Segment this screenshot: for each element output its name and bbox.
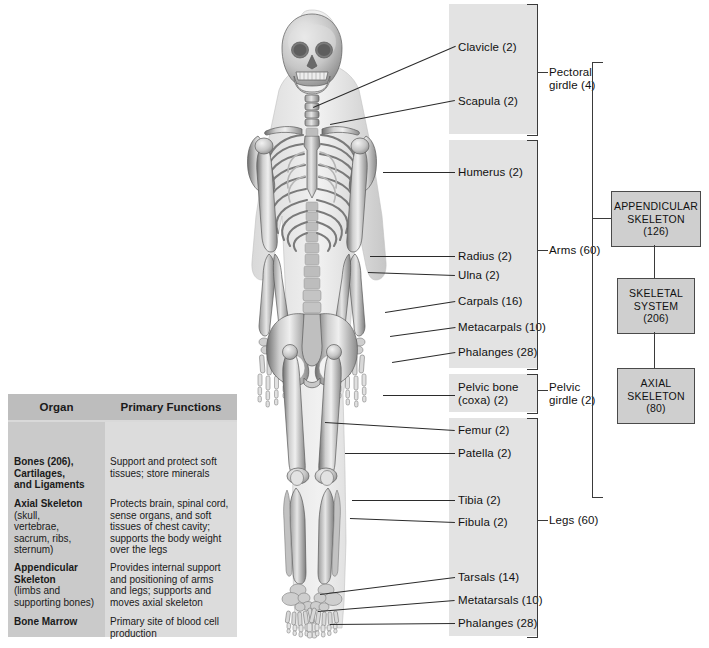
bracket-pelvic-girdle (527, 374, 538, 414)
bracket-tick-pectoral-girdle (537, 72, 548, 73)
figure-canvas: Clavicle (2)Scapula (2)Humerus (2)Radius… (0, 0, 709, 648)
flow-connector-1 (654, 245, 655, 278)
bone-label-patella: Patella (2) (458, 447, 512, 460)
table-cell-organ: Bone Marrow (14, 616, 106, 628)
flow-box-axial-skeleton: AXIALSKELETON(80) (617, 368, 695, 424)
table-header-organ: Organ (8, 394, 105, 420)
leader-line-pelvic-bone (383, 395, 455, 396)
bone-label-tarsals: Tarsals (14) (458, 571, 519, 584)
table-header-primary-functions: Primary Functions (105, 394, 237, 420)
flow-box-line: SYSTEM (634, 300, 678, 313)
bracket-legs (527, 418, 538, 638)
flow-box-skeletal-system: SKELETALSYSTEM(206) (617, 278, 695, 334)
table-cell-function: Support and protect soft tissues; store … (110, 456, 236, 479)
table-cell-organ: Appendicular Skeleton (limbs and support… (14, 562, 106, 608)
table-cell-function: Provides internal support and positionin… (110, 562, 236, 608)
bone-label-radius: Radius (2) (458, 250, 512, 263)
bracket-arms (527, 140, 538, 370)
group-label-legs: Legs (60) (549, 514, 598, 527)
flow-box-line: APPENDICULAR (614, 200, 698, 213)
table-cell-function: Protects brain, spinal cord, sense organ… (110, 498, 236, 556)
bone-label-tibia: Tibia (2) (458, 494, 501, 507)
leader-line-tibia (352, 500, 455, 501)
flow-box-line: SKELETAL (629, 287, 683, 300)
bone-label-carpals: Carpals (16) (458, 295, 522, 308)
leader-line-patella (345, 453, 455, 454)
outer-bracket-tick (592, 218, 612, 219)
bone-label-fibula: Fibula (2) (458, 516, 508, 529)
bone-label-ulna: Ulna (2) (458, 269, 500, 282)
flow-box-line: (126) (643, 225, 669, 238)
flow-box-line: SKELETON (627, 390, 684, 403)
table-cell-organ: Bones (206), Cartilages, and Ligaments (14, 456, 106, 491)
bone-label-clavicle: Clavicle (2) (458, 41, 517, 54)
bracket-pectoral-girdle (527, 4, 538, 136)
table-cell-organ-detail: (skull, vertebrae, sacrum, ribs, sternum… (14, 510, 71, 556)
group-label-pectoral-girdle: Pectoral girdle (4) (549, 66, 595, 92)
table-cell-organ-detail: (limbs and supporting bones) (14, 585, 94, 608)
bone-label-humerus: Humerus (2) (458, 166, 523, 179)
flow-box-line: SKELETON (627, 213, 684, 226)
organ-function-table: Organ Primary Functions Bones (206), Car… (8, 394, 237, 637)
bone-label-scapula: Scapula (2) (458, 95, 518, 108)
bone-label-femur: Femur (2) (458, 424, 509, 437)
bracket-tick-pelvic-girdle (537, 390, 548, 391)
flow-box-line: (206) (643, 312, 669, 325)
flow-connector-2 (654, 332, 655, 368)
outer-bracket (592, 62, 603, 498)
bone-label-pelvic-bone: Pelvic bone (coxa) (2) (458, 381, 519, 407)
flow-box-line: (80) (646, 402, 665, 415)
leader-line-humerus (383, 172, 455, 173)
flow-box-line: AXIAL (641, 377, 672, 390)
bracket-tick-legs (537, 520, 548, 521)
group-label-pelvic-girdle: Pelvic girdle (2) (549, 381, 595, 407)
pectoral-band (449, 4, 537, 134)
leader-line-radius (370, 256, 455, 257)
bone-label-phalanges-foot: Phalanges (28) (458, 617, 537, 630)
bracket-tick-arms (537, 250, 548, 251)
flow-box-appendicular-skeleton: APPENDICULARSKELETON(126) (611, 191, 701, 247)
table-cell-organ: Axial Skeleton (skull, vertebrae, sacrum… (14, 498, 106, 556)
bone-label-phalanges-hand: Phalanges (28) (458, 346, 537, 359)
table-cell-function: Primary site of blood cell production (110, 616, 236, 639)
